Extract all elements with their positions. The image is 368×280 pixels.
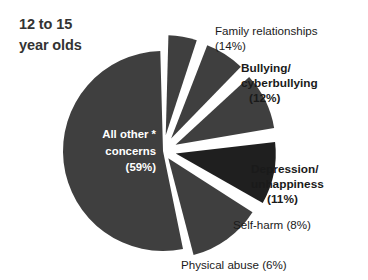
pie-chart-figure: 12 to 15 year olds All other * concerns … [0,0,368,280]
slice-label-self-harm: Self-harm (8%) [233,218,311,233]
slice-label-line-2: cyberbullying [241,76,318,91]
slice-label-line-1: All other * [46,126,156,143]
slice-label-line-3: (11%) [251,192,324,207]
slice-label-line-1: Depression/ [251,162,324,177]
slice-label-bullying-cyberbullying: Bullying/ cyberbullying (12%) [241,61,318,106]
slice-label-line-1: Family relationships [215,24,317,39]
slice-label-line-2: unhappiness [251,177,324,192]
slice-label-line-1: Self-harm (8%) [233,218,311,233]
slice-label-family-relationships: Family relationships (14%) [215,24,317,54]
slice-label-line-3: (59%) [46,159,156,176]
slice-label-depression-unhappiness: Depression/ unhappiness (11%) [251,162,324,207]
slice-label-line-1: Physical abuse (6%) [181,258,287,273]
slice-label-all-other-concerns: All other * concerns (59%) [46,126,156,176]
slice-label-line-1: Bullying/ [241,61,318,76]
slice-label-line-2: (14%) [215,39,317,54]
slice-label-physical-abuse: Physical abuse (6%) [181,258,287,273]
slice-label-line-3: (12%) [241,91,318,106]
slice-label-line-2: concerns [46,143,156,160]
